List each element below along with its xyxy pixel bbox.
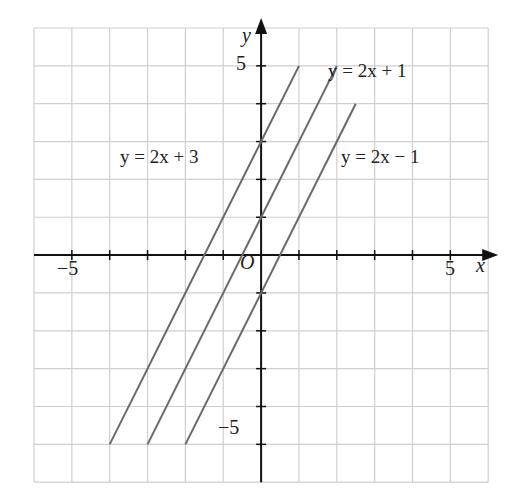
plot-line-3 [185, 104, 355, 445]
y-axis-arrow-icon [255, 18, 267, 34]
y-tick-label-5: 5 [236, 52, 246, 75]
x-tick-label-5: 5 [445, 257, 455, 280]
y-axis-label: y [242, 24, 251, 47]
coordinate-plane [0, 0, 518, 492]
x-tick-label-neg5: −5 [57, 257, 78, 280]
x-axis-label: x [476, 254, 485, 277]
axes [34, 18, 498, 482]
label-eq-2x-plus-1: y = 2x + 1 [328, 60, 406, 82]
label-eq-2x-minus-1: y = 2x − 1 [341, 146, 419, 168]
label-eq-2x-plus-3: y = 2x + 3 [120, 146, 198, 168]
origin-label: O [240, 251, 254, 274]
y-tick-label-neg5: −5 [218, 416, 239, 439]
